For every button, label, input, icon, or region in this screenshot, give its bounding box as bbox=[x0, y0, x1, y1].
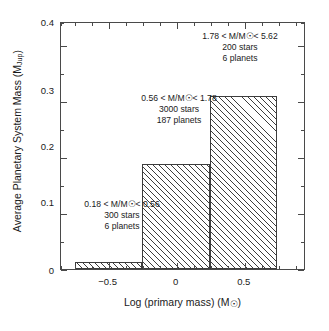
y-tick-major-right bbox=[298, 102, 304, 103]
y-axis-title-subscript: Jup bbox=[16, 54, 23, 65]
annotation-low-mass: 0.18 < M/M☉< 0.56 300 stars 6 planets bbox=[61, 199, 183, 232]
x-tick-minor bbox=[160, 266, 161, 269]
x-tick-minor-top bbox=[61, 23, 62, 26]
x-tick-minor-top bbox=[211, 23, 212, 26]
annotation-stars: 300 stars bbox=[61, 210, 183, 221]
x-tick-minor bbox=[61, 266, 62, 269]
annotation-range: 0.18 < M/M☉< 0.56 bbox=[61, 199, 183, 210]
x-axis-title-text: Log (primary mass) (M bbox=[124, 296, 230, 308]
y-axis-title-text: Average Planetary System Mass (M bbox=[11, 65, 23, 232]
x-tick-minor bbox=[126, 266, 127, 269]
y-tick-minor-right bbox=[301, 130, 304, 131]
annotation-planets: 6 planets bbox=[61, 221, 183, 232]
annotation-range: 0.56 < M/M☉< 1.78 bbox=[118, 93, 240, 104]
annotation-stars: 3000 stars bbox=[118, 104, 240, 115]
y-tick-minor bbox=[61, 242, 64, 243]
y-tick-minor bbox=[61, 74, 64, 75]
annotation-stars: 200 stars bbox=[179, 42, 301, 53]
x-tick-minor bbox=[279, 266, 280, 269]
x-tick-minor bbox=[228, 266, 229, 269]
y-tick-major bbox=[61, 46, 67, 47]
y-tick-label: 0.4 bbox=[41, 17, 54, 28]
y-tick-minor bbox=[61, 130, 64, 131]
x-tick-minor bbox=[211, 266, 212, 269]
y-tick-label: 0.3 bbox=[41, 85, 54, 96]
y-tick-major bbox=[61, 158, 67, 159]
x-tick-minor bbox=[143, 266, 144, 269]
annotation-high-mass: 1.78 < M/M☉< 5.62 200 stars 6 planets bbox=[179, 31, 301, 64]
sun-symbol-icon: ☉ bbox=[230, 299, 238, 309]
y-tick-minor-right bbox=[301, 23, 304, 24]
x-tick-minor bbox=[296, 266, 297, 269]
x-tick-minor-top bbox=[279, 23, 280, 26]
x-tick-minor-top bbox=[143, 23, 144, 26]
x-tick-minor bbox=[75, 266, 76, 269]
y-tick-major bbox=[61, 102, 67, 103]
x-axis-title-tail: ) bbox=[238, 296, 242, 308]
y-tick-major-right bbox=[298, 270, 304, 271]
x-tick-minor-top bbox=[92, 23, 93, 26]
annotation-range: 1.78 < M/M☉< 5.62 bbox=[179, 31, 301, 42]
x-axis-title: Log (primary mass) (M☉) bbox=[60, 296, 305, 309]
x-tick-major-top bbox=[177, 23, 178, 29]
x-tick-minor-top bbox=[194, 23, 195, 26]
y-axis-title-tail: ) bbox=[11, 50, 23, 54]
y-tick-major-right bbox=[298, 214, 304, 215]
x-tick-minor bbox=[194, 266, 195, 269]
x-tick-minor-top bbox=[160, 23, 161, 26]
y-axis-title: Average Planetary System Mass (MJup) bbox=[11, 16, 23, 266]
x-tick-minor-top bbox=[75, 23, 76, 26]
y-tick-major-right bbox=[298, 158, 304, 159]
x-tick-major-top bbox=[109, 23, 110, 29]
y-tick-minor-right bbox=[301, 242, 304, 243]
x-tick-minor-top bbox=[262, 23, 263, 26]
annotation-planets: 6 planets bbox=[179, 53, 301, 64]
annotation-planets: 187 planets bbox=[118, 115, 240, 126]
x-tick-minor bbox=[262, 266, 263, 269]
y-tick-label: 0.1 bbox=[41, 197, 54, 208]
y-tick-label: 0 bbox=[49, 265, 54, 276]
y-tick-major bbox=[61, 270, 67, 271]
chart-figure: 0.4 0.3 0.2 0.1 0 bbox=[0, 0, 329, 331]
x-tick-minor-top bbox=[228, 23, 229, 26]
y-tick-minor-right bbox=[301, 186, 304, 187]
annotation-solar-mass: 0.56 < M/M☉< 1.78 3000 stars 187 planets bbox=[118, 93, 240, 126]
y-tick-label: 0.2 bbox=[41, 141, 54, 152]
x-tick-major bbox=[177, 263, 178, 269]
x-tick-label: −0.5 bbox=[98, 276, 117, 287]
x-tick-label: 0 bbox=[173, 276, 178, 287]
x-axis-tick-labels: −0.5 0 0.5 bbox=[60, 276, 305, 292]
x-tick-minor-top bbox=[296, 23, 297, 26]
x-tick-minor bbox=[92, 266, 93, 269]
x-tick-label: 0.5 bbox=[237, 276, 250, 287]
y-tick-minor bbox=[61, 186, 64, 187]
x-tick-major bbox=[109, 263, 110, 269]
x-tick-major-top bbox=[245, 23, 246, 29]
plot-frame: 1.78 < M/M☉< 5.62 200 stars 6 planets 0.… bbox=[60, 22, 305, 270]
y-axis-tick-labels: 0.4 0.3 0.2 0.1 0 bbox=[0, 22, 54, 270]
x-tick-minor-top bbox=[126, 23, 127, 26]
y-tick-minor-right bbox=[301, 74, 304, 75]
x-tick-major bbox=[245, 263, 246, 269]
